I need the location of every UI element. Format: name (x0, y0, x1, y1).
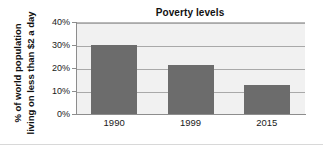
x-axis-tick-label: 1990 (104, 117, 125, 128)
y-axis-tick-mark (72, 68, 76, 69)
bar-1990 (91, 45, 137, 114)
y-axis-line (76, 22, 77, 115)
plot-area (76, 22, 305, 114)
y-axis-tick-label: 10% (36, 86, 70, 96)
y-axis-tick-mark (72, 45, 76, 46)
y-axis-tick-label: 20% (36, 63, 70, 73)
y-axis-tick-mark (72, 91, 76, 92)
x-axis-tick-label: 2015 (256, 117, 277, 128)
y-axis-tick-label: 0% (36, 109, 70, 119)
plot-inner (76, 23, 305, 114)
y-axis-title-line2: living on less than $2 a day (24, 11, 37, 134)
y-axis-tick-mark (72, 22, 76, 23)
y-axis-tick-label: 30% (36, 40, 70, 50)
x-axis-tick-label: 1999 (180, 117, 201, 128)
x-axis-line (76, 114, 306, 115)
bar-1999 (168, 65, 214, 114)
chart-figure: % of world population living on less tha… (0, 0, 323, 145)
y-axis-tick-labels: 0%10%20%30%40% (36, 0, 70, 145)
y-axis-tick-mark (72, 114, 76, 115)
gridline (76, 23, 305, 24)
bar-2015 (244, 85, 290, 114)
y-axis-title-line1: % of world population (12, 11, 25, 134)
chart-title: Poverty levels (74, 7, 306, 18)
y-axis-tick-label: 40% (36, 17, 70, 27)
